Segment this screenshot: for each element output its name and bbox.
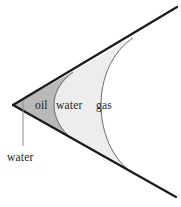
region-label-gas: gas [96,100,112,112]
region-label-water: water [56,100,83,112]
region-gas-lens [101,7,177,197]
callout-label-water: water [7,152,34,164]
phase-diagram: oil water gas water [0,0,181,207]
phase-diagram-svg [0,0,181,207]
region-label-oil: oil [35,100,48,112]
